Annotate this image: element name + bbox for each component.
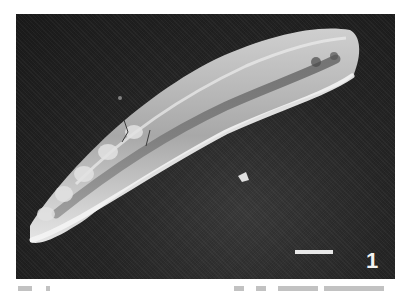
micrograph-frame: 1 <box>16 14 395 279</box>
specimen-image <box>16 14 395 279</box>
panel-label: 1 <box>366 250 378 272</box>
debris-particle <box>238 172 249 182</box>
specimen-body <box>30 28 359 242</box>
cropped-caption-strip <box>16 284 395 291</box>
scale-bar <box>295 250 333 254</box>
